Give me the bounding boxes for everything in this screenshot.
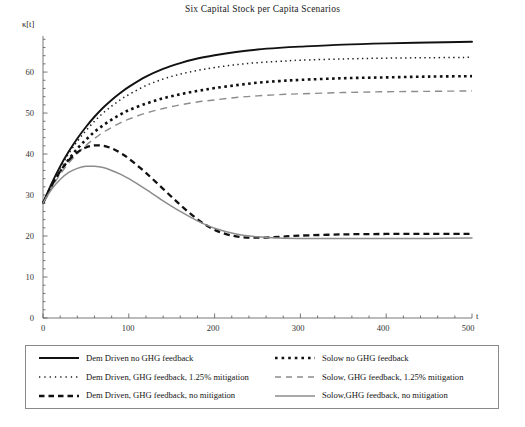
series-line-4 <box>43 145 472 237</box>
legend-label-solow-no-ghg: Solow no GHG feedback <box>322 354 409 363</box>
chart-figure: Six Capital Stock per Capita Scenarios κ… <box>0 0 525 427</box>
legend-swatch-solid-gray <box>274 391 316 401</box>
legend-label-dem-driven-ghg-mitigation: Dem Driven, GHG feedback, 1.25% mitigati… <box>86 373 249 382</box>
legend-item-solow-ghg-no-mitigation[interactable]: Solow,GHG feedback, no mitigation <box>262 391 498 401</box>
legend-label-dem-driven-ghg-no-mitigation: Dem Driven, GHG feedback, no mitigation <box>86 391 235 400</box>
legend-item-dem-driven-no-ghg[interactable]: Dem Driven no GHG feedback <box>26 353 262 363</box>
legend-label-solow-ghg-no-mitigation: Solow,GHG feedback, no mitigation <box>322 391 448 400</box>
axis-ticks <box>43 39 472 318</box>
legend-item-dem-driven-ghg-no-mitigation[interactable]: Dem Driven, GHG feedback, no mitigation <box>26 391 262 401</box>
legend-swatch-dotted-fine-black <box>38 372 80 382</box>
legend-swatch-dashed-long-gray <box>274 372 316 382</box>
legend-label-solow-ghg-mitigation: Solow, GHG feedback, 1.25% mitigation <box>322 373 463 382</box>
legend-item-solow-no-ghg[interactable]: Solow no GHG feedback <box>262 353 498 363</box>
legend-swatch-dashed-black <box>38 391 80 401</box>
legend: Dem Driven no GHG feedback Solow no GHG … <box>25 345 499 409</box>
legend-swatch-dotted-bold-black <box>274 353 316 363</box>
legend-item-dem-driven-ghg-mitigation[interactable]: Dem Driven, GHG feedback, 1.25% mitigati… <box>26 372 262 382</box>
legend-swatch-solid-black <box>38 353 80 363</box>
data-series-layer <box>43 42 472 239</box>
series-line-5 <box>43 166 472 238</box>
legend-label-dem-driven-no-ghg: Dem Driven no GHG feedback <box>86 354 193 363</box>
legend-item-solow-ghg-mitigation[interactable]: Solow, GHG feedback, 1.25% mitigation <box>262 372 498 382</box>
